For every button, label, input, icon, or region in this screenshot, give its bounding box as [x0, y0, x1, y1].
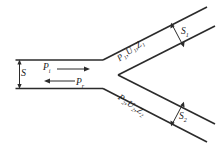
incident-pressure-label: Pi	[43, 63, 51, 74]
diagram-canvas	[0, 0, 216, 149]
branch1-area-label: S1	[181, 27, 189, 38]
bifurcated-duct-diagram: S Pi Pr P₁,U₁,Z₁ P₂,U₂,Z₂ S1 S2	[0, 0, 216, 149]
incident-pressure-subscript: i	[49, 68, 51, 74]
branch2-area-subscript: 2	[184, 117, 187, 123]
reflected-pressure-label: Pr	[76, 78, 84, 89]
branch1-area-subscript: 1	[186, 32, 189, 38]
incident-pressure-arrow	[57, 67, 90, 72]
main-duct-width-label: S	[21, 68, 26, 78]
reflected-pressure-arrow	[44, 79, 75, 84]
reflected-pressure-subscript: r	[82, 83, 84, 89]
branch2-area-label: S2	[179, 112, 187, 123]
